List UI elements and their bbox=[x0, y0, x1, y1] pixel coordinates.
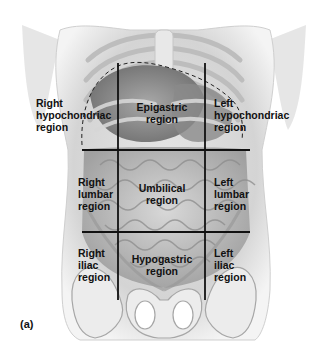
label-right-hypochondriac: Right hypochondriac region bbox=[36, 97, 111, 133]
label-right-lumbar: Right lumbar region bbox=[78, 176, 113, 212]
panel-letter: (a) bbox=[20, 318, 33, 330]
label-left-lumbar: Left lumbar region bbox=[214, 176, 249, 212]
label-right-iliac: Right iliac region bbox=[78, 247, 110, 283]
label-hypogastric: Hypogastric region bbox=[126, 253, 198, 277]
label-left-hypochondriac: Left hypochondriac region bbox=[214, 97, 289, 133]
label-umbilical: Umbilical region bbox=[128, 182, 196, 206]
label-epigastric: Epigastric region bbox=[128, 101, 196, 125]
torso-illustration bbox=[0, 0, 328, 359]
label-left-iliac: Left iliac region bbox=[214, 247, 246, 283]
abdominal-regions-figure: Right hypochondriac region Epigastric re… bbox=[0, 0, 328, 359]
